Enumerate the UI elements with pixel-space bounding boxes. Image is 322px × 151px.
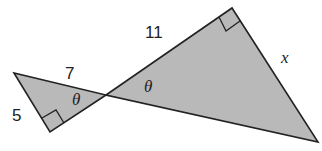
triangle-diagram: 7 5 θ 11 x θ: [0, 0, 322, 151]
label-11: 11: [145, 23, 163, 42]
large-triangle: [106, 8, 318, 142]
label-x: x: [280, 48, 289, 67]
small-triangle: [14, 73, 106, 132]
label-7: 7: [65, 64, 74, 83]
label-5: 5: [12, 106, 21, 125]
small-theta-label: θ: [72, 90, 80, 109]
large-theta-label: θ: [144, 77, 152, 96]
